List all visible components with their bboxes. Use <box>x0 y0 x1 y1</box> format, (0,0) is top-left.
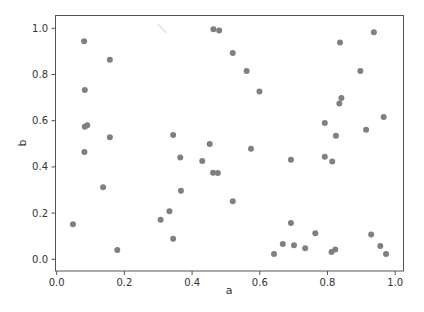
data-point <box>338 95 344 101</box>
data-point <box>82 87 88 93</box>
y-axis-label: b <box>16 139 29 146</box>
scatter-chart: 0.00.20.40.60.81.0 0.00.20.40.60.81.0 a … <box>0 0 424 312</box>
y-axis: 0.00.20.40.60.81.0 <box>32 23 55 265</box>
data-point <box>230 198 236 204</box>
x-tick-label: 0.2 <box>116 277 132 288</box>
data-point <box>329 159 335 165</box>
data-point <box>336 100 342 106</box>
data-point <box>363 127 369 133</box>
data-point <box>322 154 328 160</box>
x-tick-label: 0.8 <box>320 277 336 288</box>
data-point <box>177 154 183 160</box>
data-point <box>215 170 221 176</box>
data-point <box>158 217 164 223</box>
data-point <box>81 38 87 44</box>
data-point <box>248 146 254 152</box>
y-tick-label: 0.6 <box>32 115 48 126</box>
data-point <box>357 68 363 74</box>
data-point <box>383 251 389 257</box>
data-point <box>288 220 294 226</box>
data-point <box>371 29 377 35</box>
data-point <box>377 243 383 249</box>
data-point <box>178 188 184 194</box>
data-point <box>230 50 236 56</box>
data-point <box>244 68 250 74</box>
data-point <box>207 141 213 147</box>
y-tick-label: 1.0 <box>32 23 48 34</box>
data-point <box>302 245 308 251</box>
data-point <box>170 132 176 138</box>
data-point <box>84 122 90 128</box>
data-point <box>81 149 87 155</box>
y-tick-label: 0.0 <box>32 254 48 265</box>
data-point <box>271 251 277 257</box>
y-tick-label: 0.2 <box>32 208 48 219</box>
y-tick-label: 0.4 <box>32 161 48 172</box>
plot-frame <box>56 16 404 272</box>
data-point <box>100 184 106 190</box>
data-point <box>199 158 205 164</box>
data-point <box>170 236 176 242</box>
x-tick-label: 0.0 <box>49 277 65 288</box>
data-point <box>288 157 294 163</box>
data-point <box>107 57 113 63</box>
data-point <box>332 247 338 253</box>
data-point <box>381 114 387 120</box>
x-tick-label: 0.4 <box>184 277 200 288</box>
data-point <box>312 230 318 236</box>
data-point <box>256 89 262 95</box>
data-point <box>322 120 328 126</box>
x-tick-label: 1.0 <box>387 277 403 288</box>
x-axis-label: a <box>226 284 233 297</box>
data-point <box>114 247 120 253</box>
y-tick-label: 0.8 <box>32 69 48 80</box>
x-tick-label: 0.6 <box>252 277 268 288</box>
data-point <box>280 241 286 247</box>
data-point <box>210 26 216 32</box>
data-point <box>291 242 297 248</box>
data-point <box>337 40 343 46</box>
data-point <box>107 134 113 140</box>
data-point <box>70 221 76 227</box>
data-point <box>216 28 222 34</box>
data-point <box>368 232 374 238</box>
data-point <box>333 133 339 139</box>
data-point <box>166 208 172 214</box>
